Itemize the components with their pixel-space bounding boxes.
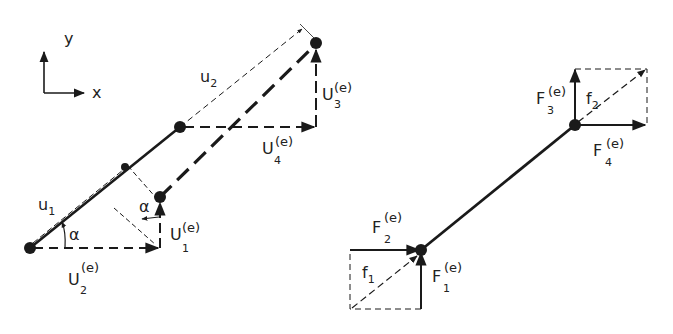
svg-text:(e): (e)	[81, 260, 99, 275]
svg-text:3: 3	[547, 104, 554, 117]
label-f1: f1	[362, 263, 375, 286]
svg-text:F: F	[593, 141, 602, 160]
svg-text:U: U	[322, 85, 334, 104]
svg-text:4: 4	[274, 154, 281, 167]
svg-text:(e): (e)	[548, 84, 566, 99]
svg-text:2: 2	[384, 233, 391, 246]
node-1-displaced	[154, 191, 166, 203]
u2-vector	[180, 29, 302, 127]
label-alpha-1: α	[69, 225, 80, 244]
label-U1: U (e) 1	[170, 220, 200, 255]
svg-text:(e): (e)	[384, 210, 402, 225]
label-u2: u2	[200, 67, 217, 90]
label-f2: f2	[586, 89, 599, 112]
svg-text:(e): (e)	[182, 220, 200, 235]
x-axis-label: x	[92, 83, 101, 102]
svg-text:2: 2	[80, 284, 87, 297]
y-axis-label: y	[64, 29, 73, 48]
label-F1: F (e) 1	[432, 260, 462, 295]
svg-text:(e): (e)	[444, 260, 462, 275]
force-panel: F (e) 3 f2 F (e) 4 F (e) 2 f1 F (e) 1	[350, 69, 647, 309]
label-U4: U (e) 4	[262, 134, 293, 167]
node-2	[174, 121, 186, 133]
force-node-2	[569, 119, 581, 131]
displaced-bar	[160, 44, 316, 197]
label-u1: u1	[38, 195, 55, 218]
svg-text:3: 3	[334, 98, 341, 111]
svg-text:U: U	[68, 270, 80, 289]
svg-text:U: U	[170, 225, 182, 244]
svg-text:4: 4	[605, 156, 612, 169]
svg-text:(e): (e)	[334, 80, 352, 95]
svg-text:U: U	[262, 139, 274, 158]
svg-text:F: F	[536, 89, 545, 108]
node-1	[24, 242, 36, 254]
svg-text:(e): (e)	[606, 136, 624, 151]
label-F4: F (e) 4	[593, 136, 624, 169]
bar-element	[421, 125, 575, 250]
original-bar	[30, 127, 180, 248]
svg-text:F: F	[372, 218, 381, 237]
svg-text:F: F	[432, 267, 441, 286]
bar-element-diagram: y x u2 u1 α α	[0, 0, 673, 334]
label-F2: F (e) 2	[372, 210, 402, 246]
label-U2: U (e) 2	[68, 260, 99, 297]
label-F3: F (e) 3	[536, 84, 566, 117]
coordinate-axes: y x	[44, 29, 101, 102]
node-2-displaced	[310, 37, 322, 49]
svg-text:(e): (e)	[275, 134, 293, 149]
svg-text:1: 1	[182, 242, 189, 255]
label-U3: U (e) 3	[322, 80, 352, 111]
displacement-panel: u2 u1 α α U (e) 1 U (e) 2 U (e) 3 U (e) …	[24, 24, 352, 297]
force-node-1	[415, 244, 427, 256]
svg-text:1: 1	[443, 282, 450, 295]
label-alpha-2: α	[139, 197, 150, 216]
